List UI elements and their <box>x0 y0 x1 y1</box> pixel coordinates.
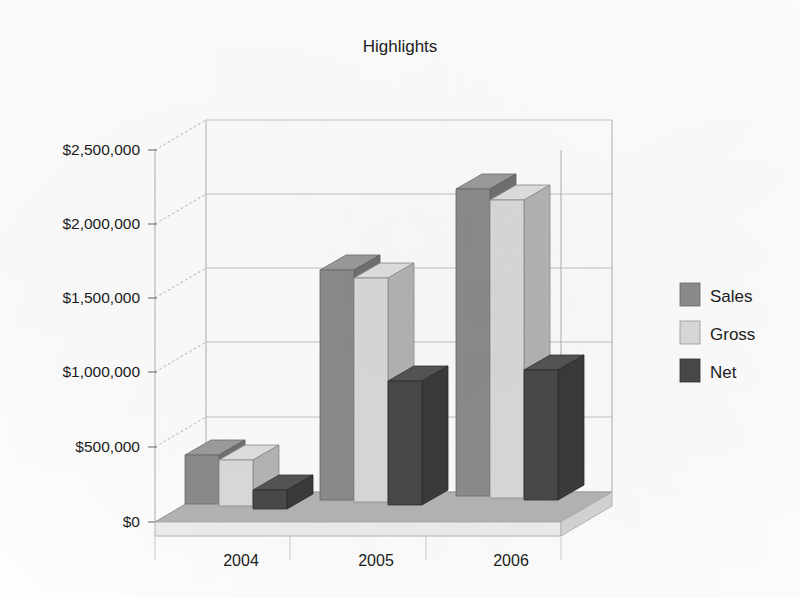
y-tick-label: $1,000,000 <box>62 363 140 380</box>
y-tick-label: $2,000,000 <box>62 215 140 232</box>
plot-floor-front-edge <box>155 522 561 536</box>
legend-label-sales: Sales <box>710 287 753 306</box>
y-tick-label: $2,500,000 <box>62 141 140 158</box>
x-tick-label-2004: 2004 <box>223 552 259 569</box>
chart-title: Highlights <box>363 37 438 56</box>
legend-swatch-gross <box>680 321 700 344</box>
legend-swatch-net <box>680 359 700 382</box>
bar-2006-net <box>524 355 584 500</box>
legend-swatch-sales <box>680 283 700 306</box>
y-tick-label: $500,000 <box>75 438 140 455</box>
x-tick-label-2006: 2006 <box>493 552 529 569</box>
y-tick-label: $1,500,000 <box>62 289 140 306</box>
y-axis-labels: $2,500,000 $2,000,000 $1,500,000 $1,000,… <box>62 141 140 530</box>
legend-label-net: Net <box>710 363 737 382</box>
legend-item-gross[interactable]: Gross <box>680 321 755 344</box>
x-axis-labels: 2004 2005 2006 <box>223 552 529 569</box>
y-tick-label: $0 <box>123 513 141 530</box>
chart-container: Highlights <box>0 0 800 598</box>
bar-chart-3d: Highlights <box>0 0 800 598</box>
legend-label-gross: Gross <box>710 325 755 344</box>
x-tick-label-2005: 2005 <box>358 552 394 569</box>
legend-item-sales[interactable]: Sales <box>680 283 753 306</box>
legend-item-net[interactable]: Net <box>680 359 737 382</box>
chart-legend: Sales Gross Net <box>680 283 755 382</box>
bar-2005-net <box>388 366 448 505</box>
